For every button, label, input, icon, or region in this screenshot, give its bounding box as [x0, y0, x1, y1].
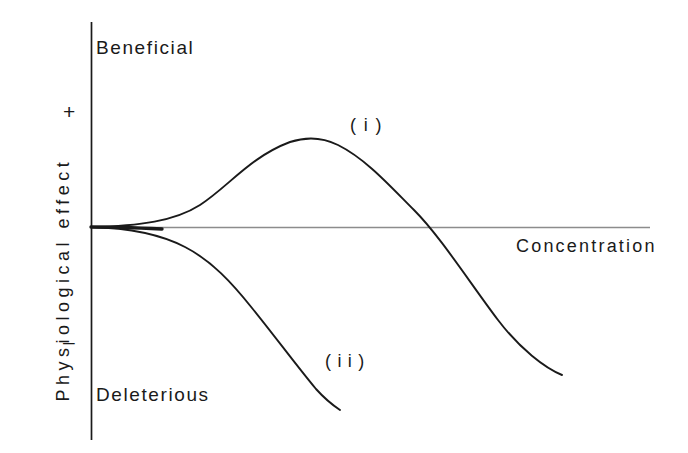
- y-axis-label: Physiological effect: [53, 182, 74, 402]
- curve-origin-merge: [91, 227, 162, 229]
- y-axis-positive-marker: +: [63, 101, 75, 122]
- curve-ii-path: [91, 227, 340, 410]
- deleterious-region-label: Deleterious: [96, 384, 210, 406]
- curve-i-label: ( i ): [350, 115, 383, 136]
- beneficial-region-label: Beneficial: [96, 37, 194, 59]
- figure-container: Beneficial Deleterious Concentration Phy…: [0, 0, 688, 453]
- y-axis-negative-marker: –: [63, 331, 75, 352]
- x-axis-label: Concentration: [516, 236, 657, 257]
- curve-ii-label: ( i i ): [325, 351, 365, 372]
- curve-i-path: [91, 139, 562, 375]
